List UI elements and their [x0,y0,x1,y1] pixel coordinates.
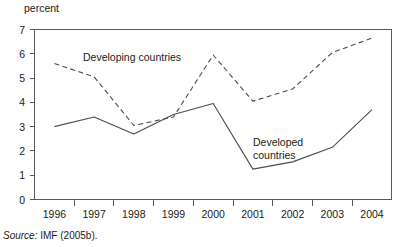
series-annotation-developed-line1: Developed [253,136,303,148]
x-tick-label: 2004 [360,208,384,220]
y-tick-label: 0 [19,194,25,206]
x-tick-label: 2001 [241,208,265,220]
x-tick-label: 1997 [82,208,106,220]
x-axis-ticks [74,200,352,206]
x-tick-label: 1998 [122,208,146,220]
source-note: Source: IMF (2005b). [3,230,98,242]
y-tick-label: 2 [19,145,25,157]
y-axis-ticks [30,30,35,200]
x-tick-label: 2002 [281,208,305,220]
series-annotation-developed-countries: Developed countries [253,136,303,161]
y-tick-label: 1 [19,169,25,181]
y-tick-label: 7 [19,24,25,36]
source-text: IMF (2005b). [40,230,97,241]
x-axis-tick-labels: 1996 1997 1998 1999 2000 2001 2002 2003 … [43,208,384,220]
source-label: Source: [3,230,37,241]
x-tick-label: 2003 [321,208,345,220]
x-tick-label: 1999 [162,208,186,220]
y-tick-label: 5 [19,72,25,84]
y-tick-label: 3 [19,121,25,133]
chart-figure: percent 0 1 2 3 4 5 6 7 [0,0,405,247]
series-annotation-developing-countries: Developing countries [83,51,181,63]
plot-area: 0 1 2 3 4 5 6 7 1996 1997 1998 1999 2000 [0,0,405,247]
x-tick-label: 2000 [202,208,226,220]
series-line-developed-countries [54,104,372,170]
y-tick-label: 4 [19,96,25,108]
y-axis-tick-labels: 0 1 2 3 4 5 6 7 [19,24,25,206]
x-tick-label: 1996 [43,208,67,220]
series-annotation-developed-line2: countries [253,149,296,161]
y-tick-label: 6 [19,48,25,60]
